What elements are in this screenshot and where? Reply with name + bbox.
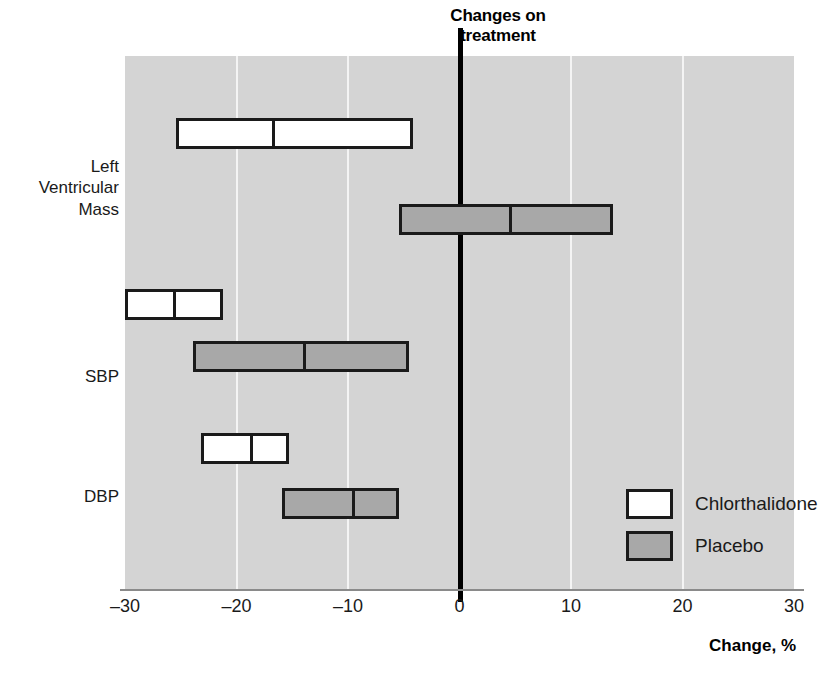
median-marker [352,491,355,516]
chart-title: Changes on treatment [388,6,608,46]
x-tick-label: –10 [333,596,363,617]
legend-item-placebo[interactable]: Placebo [626,525,818,567]
bar-chlorthalidone-0 [176,118,412,149]
x-tick-label: 0 [454,596,464,617]
median-marker [272,121,275,146]
bar-placebo-5 [282,488,399,519]
category-axis-labels: Left Ventricular Mass SBP DBP [0,56,119,590]
x-tick-label: –30 [110,596,140,617]
median-marker [173,292,176,317]
bar-placebo-3 [193,341,409,372]
zero-reference-line [458,28,463,602]
median-marker [509,207,512,232]
x-axis-title: Change, % [600,636,796,656]
legend-swatch-chlorthalidone [626,489,673,519]
category-label-dbp: DBP [1,486,119,507]
legend-swatch-placebo [626,531,673,561]
bar-chlorthalidone-4 [201,433,289,464]
legend-label-placebo: Placebo [695,535,764,557]
x-axis-line [120,589,804,591]
gridline [682,56,684,590]
x-tick-label: –20 [221,596,251,617]
legend-label-chlorthalidone: Chlorthalidone [695,493,818,515]
gridline [570,56,572,590]
legend: Chlorthalidone Placebo [626,483,818,567]
x-axis-tick-labels: –30–20–100102030 [125,596,794,626]
x-tick-label: 30 [784,596,804,617]
chart-figure: Changes on treatment Left Ventricular Ma… [0,0,824,673]
legend-item-chlorthalidone[interactable]: Chlorthalidone [626,483,818,525]
plot-area: Chlorthalidone Placebo [125,56,794,590]
median-marker [303,344,306,369]
x-tick-label: 10 [561,596,581,617]
bar-chlorthalidone-2 [125,289,223,320]
category-label-sbp: SBP [1,366,119,387]
median-marker [250,436,253,461]
category-label-lvm: Left Ventricular Mass [1,156,119,220]
x-tick-label: 20 [672,596,692,617]
bar-placebo-1 [399,204,613,235]
